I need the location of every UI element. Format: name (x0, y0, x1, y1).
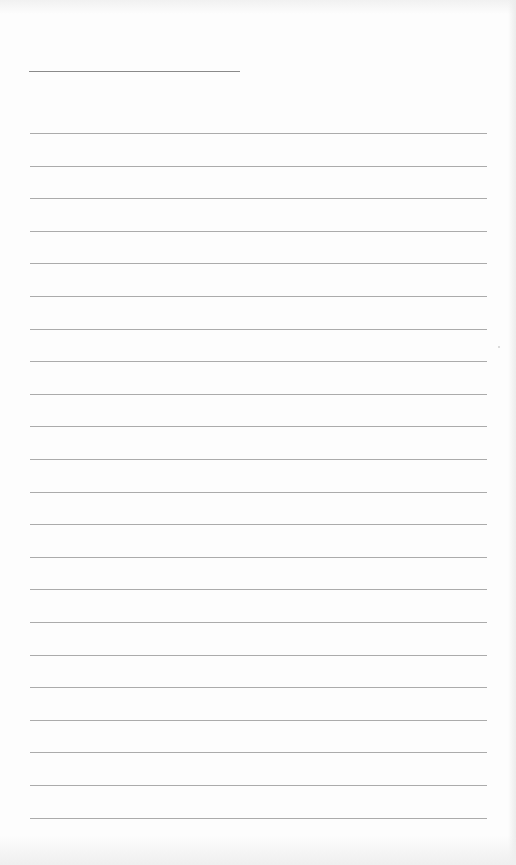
ruled-line (30, 296, 487, 297)
ruled-line (30, 394, 487, 395)
scan-shadow-bottom (0, 835, 516, 865)
paper-speck (498, 346, 500, 348)
ruled-line (30, 166, 487, 167)
ruled-line (30, 785, 487, 786)
ruled-line (30, 752, 487, 753)
ruled-line (30, 492, 487, 493)
ruled-line (30, 687, 487, 688)
ruled-line (30, 263, 487, 264)
scan-shadow-top (0, 0, 516, 14)
ruled-line (30, 720, 487, 721)
ruled-line (30, 524, 487, 525)
ruled-line (30, 133, 487, 134)
ruled-line (30, 426, 487, 427)
ruled-line (30, 361, 487, 362)
header-name-line (29, 71, 240, 72)
ruled-line (30, 459, 487, 460)
ruled-line (30, 231, 487, 232)
ruled-line (30, 622, 487, 623)
ruled-line (30, 198, 487, 199)
scan-shadow-right (508, 0, 516, 865)
ruled-line (30, 655, 487, 656)
ruled-line (30, 557, 487, 558)
ruled-line (30, 589, 487, 590)
ruled-line (30, 329, 487, 330)
ruled-line (30, 818, 487, 819)
